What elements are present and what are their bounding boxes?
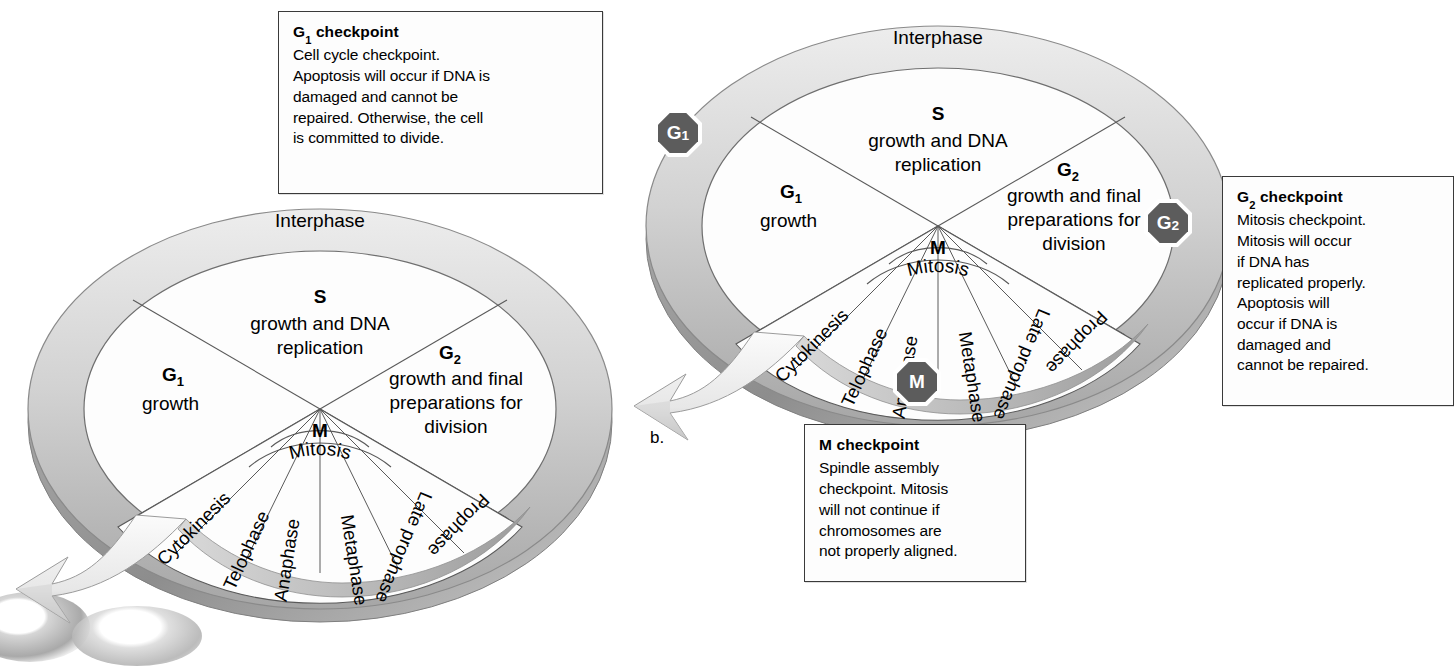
figure-part-label-b: b. <box>650 428 664 448</box>
g2-phase-line1-a: growth and final <box>389 368 523 389</box>
mitosis-letter-a: M <box>312 420 328 441</box>
badge-letter: G <box>1157 212 1172 234</box>
s-phase-title-b: S <box>932 103 945 124</box>
m-callout-line: not properly aligned. <box>819 541 1013 562</box>
s-phase-line1-b: growth and DNA <box>868 130 1008 151</box>
g2-phase-line2-b: preparations for <box>1007 209 1141 230</box>
g2-callout-line: occur if DNA is <box>1237 314 1441 335</box>
g1-callout-line: repaired. Otherwise, the cell <box>293 108 590 129</box>
g2-checkpoint-badge[interactable]: G2 <box>1144 199 1192 247</box>
g1-checkpoint-badge[interactable]: G1 <box>654 109 702 157</box>
cell-cycle-svg-a: Interphase S growth and DNA replication … <box>0 185 650 630</box>
m-callout-line: checkpoint. Mitosis <box>819 479 1013 500</box>
s-phase-line2-a: replication <box>277 337 364 358</box>
octagon-icon: G2 <box>1148 203 1188 243</box>
octagon-icon: M <box>897 362 937 402</box>
g2-phase-line1-b: growth and final <box>1007 185 1141 206</box>
g2-phase-line3-b: division <box>1042 233 1105 254</box>
g1-callout-line: Cell cycle checkpoint. <box>293 45 590 66</box>
g1-callout-line: is committed to divide. <box>293 128 590 149</box>
g2-callout-line: if DNA has <box>1237 252 1441 273</box>
m-callout-line: will not continue if <box>819 500 1013 521</box>
g1-callout-body: Cell cycle checkpoint. Apoptosis will oc… <box>293 45 590 148</box>
m-callout-line: Spindle assembly <box>819 458 1013 479</box>
g1-checkpoint-callout: G1 checkpoint Cell cycle checkpoint. Apo… <box>278 11 603 194</box>
g2-callout-line: Mitosis checkpoint. <box>1237 210 1441 231</box>
g1-phase-line1-b: growth <box>760 210 817 231</box>
g1-phase-line1-a: growth <box>142 393 199 414</box>
g2-phase-line3-a: division <box>424 416 487 437</box>
m-checkpoint-callout: M checkpoint Spindle assembly checkpoint… <box>804 424 1026 582</box>
g2-callout-line: replicated properly. <box>1237 273 1441 294</box>
cell-cycle-diagram-a: Interphase S growth and DNA replication … <box>0 185 650 630</box>
interphase-label-a: Interphase <box>275 210 365 231</box>
g1-callout-line: damaged and cannot be <box>293 87 590 108</box>
m-checkpoint-badge[interactable]: M <box>893 358 941 406</box>
g2-callout-title: G2 checkpoint <box>1237 187 1441 207</box>
m-callout-line: chromosomes are <box>819 521 1013 542</box>
g2-phase-line2-a: preparations for <box>389 392 523 413</box>
mitosis-letter-b: M <box>930 237 946 258</box>
interphase-label-b: Interphase <box>893 27 983 48</box>
g2-checkpoint-callout: G2 checkpoint Mitosis checkpoint. Mitosi… <box>1222 176 1454 406</box>
badge-letter: M <box>909 371 925 393</box>
m-callout-title: M checkpoint <box>819 435 1013 455</box>
octagon-icon: G1 <box>658 113 698 153</box>
g2-callout-body: Mitosis checkpoint. Mitosis will occur i… <box>1237 210 1441 376</box>
g1-callout-title: G1 checkpoint <box>293 22 590 42</box>
s-phase-line1-a: growth and DNA <box>250 313 390 334</box>
m-callout-body: Spindle assembly checkpoint. Mitosis wil… <box>819 458 1013 561</box>
g1-callout-line: Apoptosis will occur if DNA is <box>293 66 590 87</box>
s-phase-title-a: S <box>314 286 327 307</box>
g2-callout-line: Mitosis will occur <box>1237 231 1441 252</box>
g2-callout-line: Apoptosis will <box>1237 293 1441 314</box>
badge-letter: G <box>667 122 682 144</box>
g2-callout-line: damaged and <box>1237 335 1441 356</box>
s-phase-line2-b: replication <box>895 154 982 175</box>
g2-callout-line: cannot be repaired. <box>1237 355 1441 376</box>
